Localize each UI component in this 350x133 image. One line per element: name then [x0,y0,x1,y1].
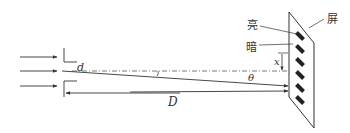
slit-barrier [64,48,77,97]
double-slit-diagram: d θ D 亮 暗 屏 x [0,0,350,133]
fringe-position-label: x [274,56,280,67]
angle-label: θ [248,72,254,83]
dark-fringe-label: 暗 [246,40,257,54]
screen-leader [309,19,324,28]
diffracted-rays [62,71,288,92]
dark-leader [259,44,293,45]
angle-arc-left [157,71,158,76]
bright-fringe-label: 亮 [247,18,258,32]
screen-distance-label: D [167,95,178,109]
incident-rays [20,57,57,86]
screen-label: 屏 [327,13,338,26]
screen [289,12,314,128]
